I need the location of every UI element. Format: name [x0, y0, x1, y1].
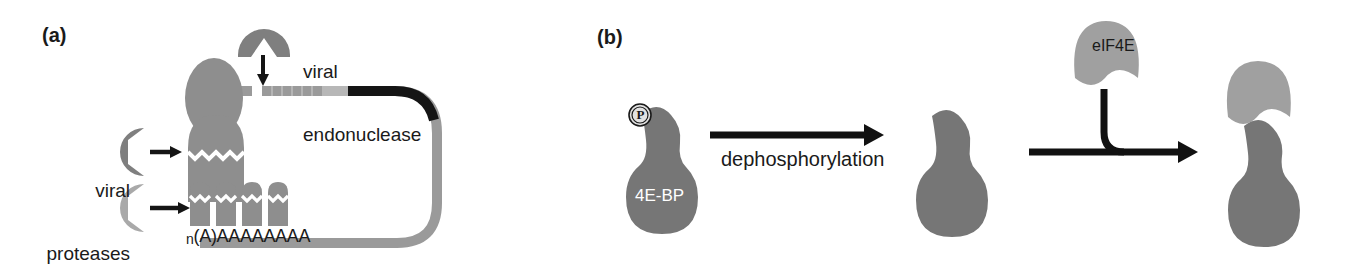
- endonuclease-arrow: [257, 55, 269, 86]
- eif4e-label: eIF4E: [1092, 37, 1135, 55]
- viral-endonuclease-label: viral endonuclease: [303, 18, 421, 188]
- 4ebp-label: 4E-BP: [635, 186, 684, 206]
- viral-endonuclease-label-line1: viral: [303, 61, 421, 82]
- viral-proteases-label-line2: proteases: [18, 243, 130, 264]
- polya-sequence: (A)AAAAAAAA: [194, 226, 311, 246]
- viral-proteases-label-line1: viral: [18, 180, 130, 201]
- viral-proteases-label: viral proteases: [18, 137, 130, 268]
- polya-tail-label: n(A)AAAAAAAA: [186, 226, 310, 248]
- dephosphorylation-arrow: [710, 124, 884, 146]
- binding-arrow: [1029, 89, 1198, 163]
- dephosphorylation-label: dephosphorylation: [721, 148, 884, 170]
- panel-b-label: (b): [597, 26, 623, 49]
- viral-protease-lower-arrow: [150, 202, 190, 214]
- phospho-badge-label: P: [635, 107, 646, 123]
- panel-a-label: (a): [42, 24, 66, 47]
- panel-b-graphics: [626, 21, 1300, 247]
- viral-protease-upper-arrow: [150, 146, 182, 158]
- viral-endonuclease-shape: [238, 29, 290, 57]
- viral-endonuclease-label-line2: endonuclease: [303, 124, 421, 145]
- polya-subscript: n: [186, 231, 194, 247]
- dephosphorylated-4ebp: [916, 110, 988, 237]
- 4ebp-eif4e-complex: [1227, 61, 1300, 247]
